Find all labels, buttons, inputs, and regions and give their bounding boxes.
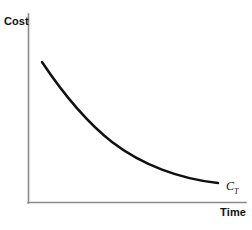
cost-curve-label: CT xyxy=(226,180,238,197)
cost-curve-path xyxy=(42,62,218,183)
cost-time-chart: Cost Time CT xyxy=(0,0,252,230)
plot-area xyxy=(0,0,252,230)
x-axis-label: Time xyxy=(220,206,246,218)
y-axis-label: Cost xyxy=(4,15,29,27)
cost-curve-label-base: C xyxy=(226,179,234,193)
cost-curve-label-subscript: T xyxy=(234,187,238,196)
